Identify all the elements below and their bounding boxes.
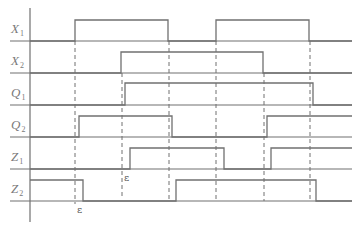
signal-waveform-x2 [30, 52, 352, 73]
timing-diagram: εε X1 X2 Q1 Q2 Z1 Z2 [0, 0, 361, 229]
signal-waveform-z1 [30, 148, 352, 169]
signal-waveform-q2 [30, 116, 352, 137]
signal-name: X [11, 53, 19, 68]
signal-name: Z [11, 181, 18, 196]
epsilon-annotation: ε [77, 204, 82, 215]
signal-label-x2: X2 [11, 53, 29, 69]
signal-subscript: 2 [20, 61, 24, 70]
signal-label-q2: Q2 [11, 117, 29, 133]
signal-name: X [11, 21, 19, 36]
signal-label-z1: Z1 [11, 149, 29, 165]
signal-subscript: 1 [19, 157, 23, 166]
signal-label-z2: Z2 [11, 181, 29, 197]
waveform-plot: εε [0, 0, 361, 229]
signal-name: Q [11, 85, 20, 100]
signal-label-q1: Q1 [11, 85, 29, 101]
signal-name: Z [11, 149, 18, 164]
signal-waveform-z2 [30, 180, 352, 201]
epsilon-annotation: ε [124, 172, 129, 183]
signal-subscript: 2 [19, 189, 23, 198]
signal-subscript: 1 [20, 29, 24, 38]
signal-subscript: 2 [21, 125, 25, 134]
signal-label-x1: X1 [11, 21, 29, 37]
signal-waveform-q1 [30, 83, 352, 105]
signal-subscript: 1 [21, 93, 25, 102]
signal-waveform-x1 [30, 20, 352, 41]
signal-name: Q [11, 117, 20, 132]
